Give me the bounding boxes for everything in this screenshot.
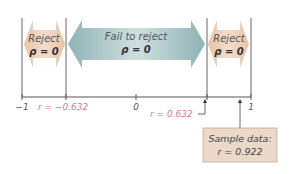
tick-label-plus-one: 1 [248, 102, 254, 112]
critical-values-diagram: Reject ρ = 0 Fail to reject ρ = 0 Reject… [0, 0, 292, 174]
pos-critical-arrowhead [203, 99, 207, 103]
reject-region-left-arrow [24, 20, 65, 68]
middle-rho-label: ρ = 0 [121, 44, 151, 55]
pos-critical-value-label: r = 0.632 [150, 109, 193, 119]
left-reject-label: Reject [28, 33, 61, 44]
tick-label-minus-one: −1 [15, 102, 28, 112]
sample-data-value: r = 0.922 [217, 146, 262, 157]
middle-fail-label: Fail to reject [105, 31, 169, 42]
reject-region-right-arrow [208, 20, 249, 68]
right-reject-label: Reject [213, 33, 246, 44]
left-rho-label: ρ = 0 [29, 46, 59, 57]
neg-critical-value-label: r = −0.632 [38, 102, 89, 112]
sample-data-title: Sample data: [208, 133, 271, 144]
tick-label-zero: 0 [133, 102, 139, 112]
right-rho-label: ρ = 0 [214, 46, 244, 57]
sample-data-arrowhead [238, 99, 242, 103]
